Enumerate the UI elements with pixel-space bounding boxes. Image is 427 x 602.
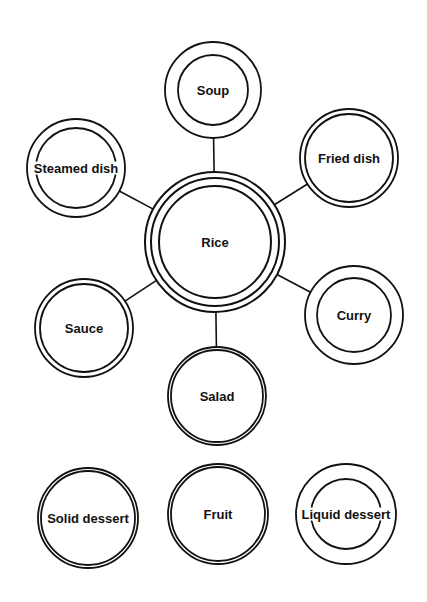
connector-rice-steamed-dish — [119, 191, 153, 209]
node-soup: Soup — [165, 42, 261, 138]
node-fruit: Fruit — [168, 464, 268, 564]
node-sauce: Sauce — [35, 279, 133, 377]
node-liquid-dessert: Liquid dessert — [296, 464, 396, 564]
node-curry: Curry — [305, 266, 403, 364]
node-label-fruit: Fruit — [204, 507, 234, 522]
dish-nodes: RiceSoupSteamed dishFried dishSauceCurry… — [27, 42, 403, 568]
node-salad: Salad — [168, 347, 266, 445]
node-fried-dish: Fried dish — [300, 109, 398, 207]
connector-rice-soup — [214, 138, 215, 172]
node-rice: Rice — [145, 172, 285, 312]
node-label-salad: Salad — [200, 389, 235, 404]
meal-composition-diagram: RiceSoupSteamed dishFried dishSauceCurry… — [0, 0, 427, 602]
connector-rice-salad — [216, 312, 217, 347]
node-label-solid-dessert: Solid dessert — [47, 511, 129, 526]
node-steamed-dish: Steamed dish — [27, 119, 125, 217]
connector-rice-fried-dish — [274, 184, 307, 205]
node-label-liquid-dessert: Liquid dessert — [302, 507, 392, 522]
connector-rice-curry — [277, 275, 311, 293]
node-label-sauce: Sauce — [65, 321, 103, 336]
connector-rice-sauce — [125, 280, 157, 301]
node-label-rice: Rice — [201, 235, 228, 250]
node-label-soup: Soup — [197, 83, 230, 98]
node-solid-dessert: Solid dessert — [38, 468, 138, 568]
node-label-curry: Curry — [337, 308, 372, 323]
node-label-steamed-dish: Steamed dish — [34, 161, 119, 176]
node-label-fried-dish: Fried dish — [318, 151, 380, 166]
